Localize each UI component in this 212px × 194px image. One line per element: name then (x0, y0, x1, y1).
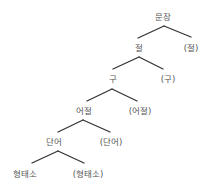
node-word-paren: (단어) (100, 138, 123, 147)
node-word: 단어 (46, 138, 62, 147)
edge-phrase-eojeol-paren (112, 89, 137, 101)
node-sentence: 문장 (155, 13, 171, 22)
node-clause: 절 (135, 44, 143, 53)
edge-clause-phrase-paren (139, 57, 163, 69)
edge-eojeol-word-paren (83, 120, 110, 132)
node-eojeol-paren: (어절) (129, 107, 152, 116)
edge-clause-phrase (113, 57, 139, 69)
node-clause-paren: (절) (184, 44, 199, 53)
node-eojeol: 어절 (76, 107, 92, 116)
edge-phrase-eojeol (87, 89, 112, 101)
tree-diagram: 문장 절 (절) 구 (구) 어절 (어절) 단어 (단어) 형태소 (형태소) (0, 0, 212, 194)
edge-sentence-clause-paren (164, 26, 191, 37)
edge-eojeol-word (58, 120, 83, 132)
tree-edges (0, 0, 212, 194)
edge-sentence-clause (138, 26, 164, 38)
node-phrase-paren: (구) (161, 75, 176, 84)
node-morpheme: 형태소 (13, 170, 37, 179)
edge-word-morpheme (32, 151, 58, 163)
node-phrase: 구 (109, 75, 117, 84)
node-morpheme-paren: (형태소) (73, 170, 104, 179)
edge-word-morpheme-paren (58, 151, 84, 163)
